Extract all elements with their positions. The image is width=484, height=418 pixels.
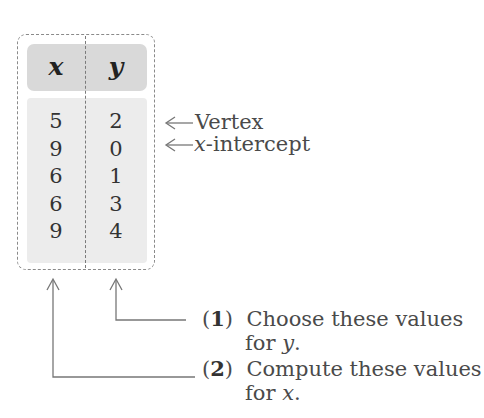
step-2-annotation: (2) Compute these values for x. bbox=[202, 357, 482, 405]
step-1-line1: Choose these values bbox=[246, 307, 463, 331]
step-1-annotation: (1) Choose these values for y. bbox=[202, 307, 463, 355]
step-2-line2: for x. bbox=[202, 381, 482, 405]
x-intercept-label: x-intercept bbox=[194, 132, 310, 156]
step-1-number: (1) bbox=[202, 307, 233, 331]
step-2-number: (2) bbox=[202, 357, 233, 381]
x-intercept-text: -intercept bbox=[206, 132, 310, 156]
connector-lines bbox=[0, 0, 484, 418]
vertex-label: Vertex bbox=[195, 110, 263, 134]
step-2-line1: Compute these values bbox=[246, 357, 481, 381]
x-variable: x bbox=[194, 132, 206, 156]
step-1-line2: for y. bbox=[202, 331, 463, 355]
